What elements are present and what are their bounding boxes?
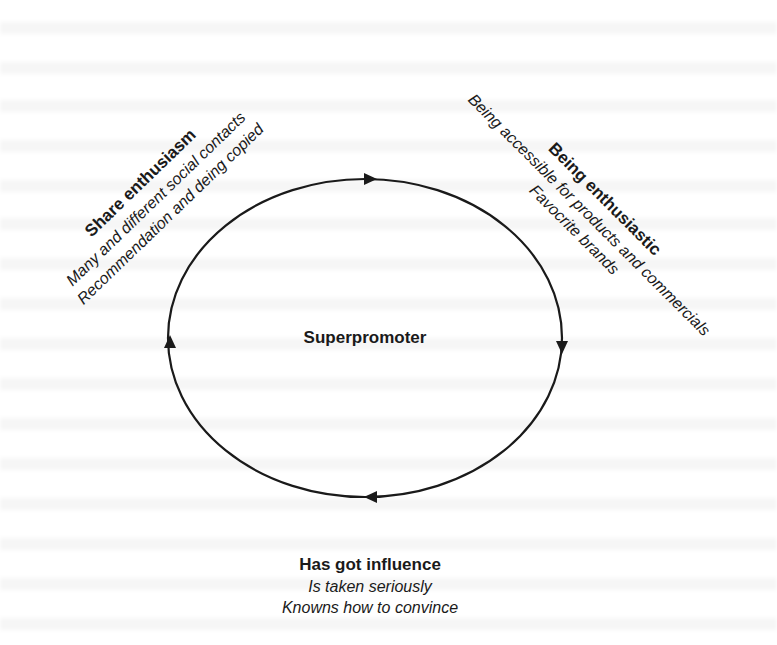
arrow-down-icon xyxy=(556,341,568,354)
node-has-got-influence: Has got influence Is taken seriously Kno… xyxy=(282,553,458,618)
center-label: Superpromoter xyxy=(304,328,427,348)
node-title: Has got influence xyxy=(282,553,458,576)
arrow-right-icon xyxy=(364,173,377,185)
arrow-up-icon xyxy=(164,335,176,348)
node-line: Is taken seriously xyxy=(282,576,458,597)
node-line: Knowns how to convince xyxy=(282,597,458,618)
arrow-left-icon xyxy=(364,491,377,503)
